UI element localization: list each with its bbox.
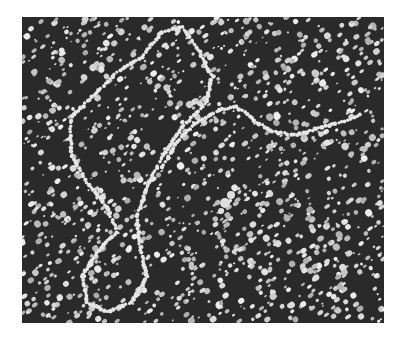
micrograph-image bbox=[22, 17, 384, 323]
dna-strand-figure bbox=[22, 17, 384, 323]
